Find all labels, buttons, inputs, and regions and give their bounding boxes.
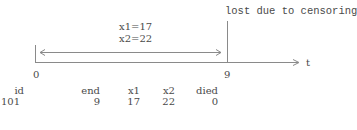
x2-label: x2=22: [119, 33, 152, 44]
cell-died: 0: [188, 96, 218, 107]
tick-label-end: 9: [224, 69, 230, 80]
cell-x1: 17: [120, 96, 140, 107]
axis-label-t: t: [306, 57, 310, 68]
header-x2: x2: [155, 85, 175, 96]
cell-x2: 22: [155, 96, 175, 107]
header-id: id: [4, 85, 24, 96]
x1-label: x1=17: [119, 21, 152, 32]
cell-end: 9: [70, 96, 100, 107]
header-x1: x1: [120, 85, 140, 96]
cell-id: 101: [0, 96, 20, 107]
header-died: died: [188, 85, 218, 96]
header-end: end: [70, 85, 100, 96]
censoring-annotation: lost due to censoring: [225, 6, 357, 17]
tick-label-start: 0: [33, 69, 39, 80]
